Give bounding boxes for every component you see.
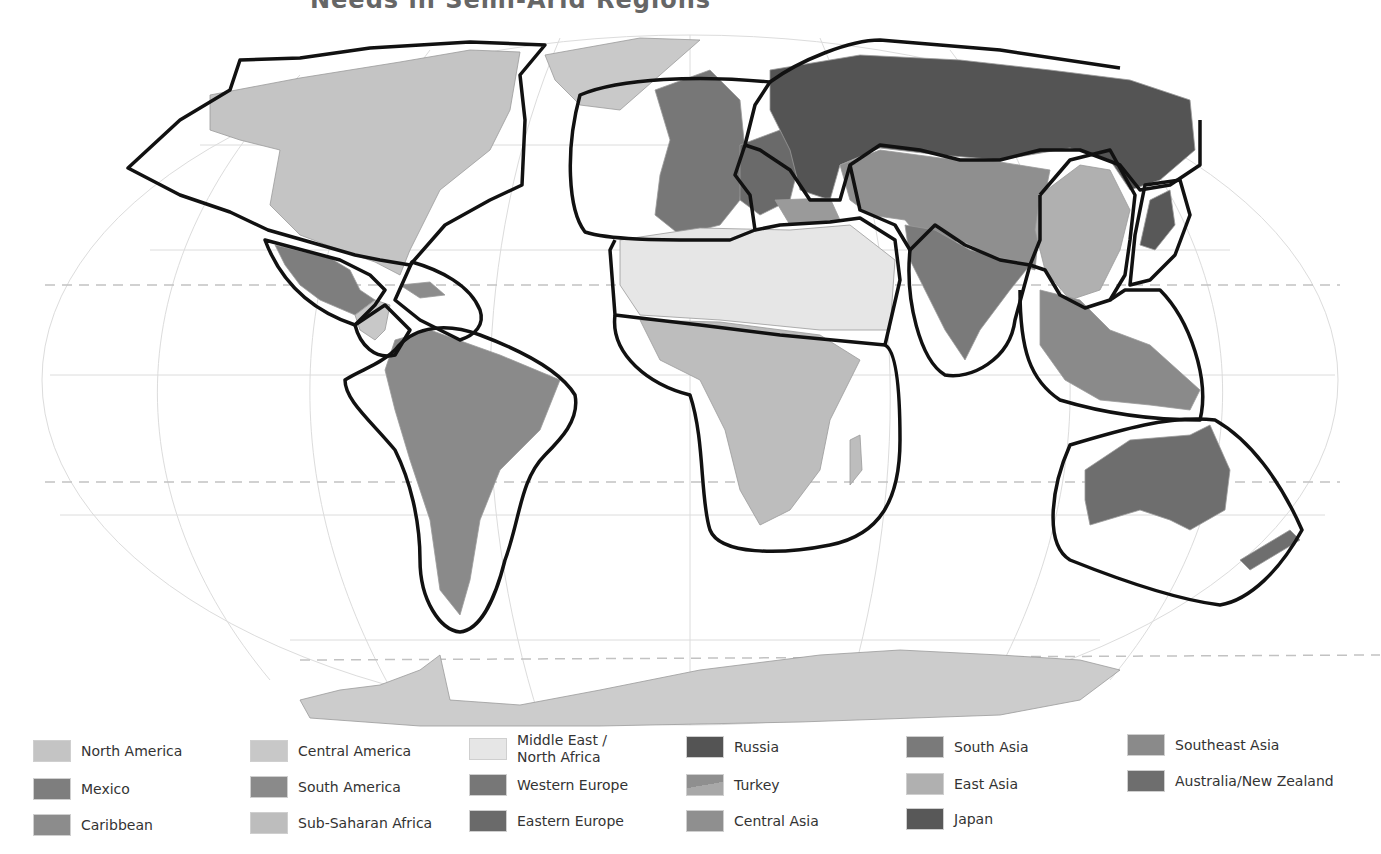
region-japan <box>1140 190 1175 250</box>
legend-item-middle-east-north-africa: Middle East / North Africa <box>469 732 607 766</box>
legend-item-central-america: Central America <box>250 740 411 762</box>
legend-item-japan: Japan <box>906 808 993 830</box>
swatch-russia <box>686 736 724 758</box>
swatch-mexico <box>33 778 71 800</box>
swatch-central-asia <box>686 810 724 832</box>
legend-label: East Asia <box>954 776 1018 793</box>
swatch-western-europe <box>469 774 507 796</box>
swatch-central-america <box>250 740 288 762</box>
region-australia-new-zealand <box>1085 425 1230 530</box>
swatch-south-america <box>250 776 288 798</box>
swatch-eastern-europe <box>469 810 507 832</box>
legend-item-north-america: North America <box>33 740 182 762</box>
legend-item-turkey: Turkey <box>686 774 780 796</box>
legend: North America Mexico Caribbean Central A… <box>0 730 1381 854</box>
swatch-south-asia <box>906 736 944 758</box>
legend-label: Middle East / North Africa <box>517 732 607 766</box>
legend-label: South Asia <box>954 739 1028 756</box>
legend-label: North America <box>81 743 182 760</box>
legend-item-russia: Russia <box>686 736 779 758</box>
swatch-southeast-asia <box>1127 734 1165 756</box>
legend-label: Central America <box>298 743 411 760</box>
swatch-caribbean <box>33 814 71 836</box>
legend-item-sub-saharan-africa: Sub-Saharan Africa <box>250 812 432 834</box>
swatch-middle-east-north-africa <box>469 738 507 760</box>
land <box>210 38 1300 726</box>
legend-label: South America <box>298 779 401 796</box>
swatch-japan <box>906 808 944 830</box>
world-map <box>0 0 1381 730</box>
legend-item-mexico: Mexico <box>33 778 130 800</box>
legend-item-south-america: South America <box>250 776 401 798</box>
legend-item-east-asia: East Asia <box>906 773 1018 795</box>
swatch-australia-new-zealand <box>1127 770 1165 792</box>
region-sub-saharan-africa <box>640 320 860 525</box>
legend-label: Eastern Europe <box>517 813 624 830</box>
legend-item-australia-new-zealand: Australia/New Zealand <box>1127 770 1334 792</box>
region-north-america <box>210 50 520 275</box>
legend-label: Mexico <box>81 781 130 798</box>
madagascar <box>850 435 862 485</box>
swatch-turkey <box>686 774 724 796</box>
legend-label: Russia <box>734 739 779 756</box>
swatch-east-asia <box>906 773 944 795</box>
legend-label: Caribbean <box>81 817 153 834</box>
antarctica <box>300 650 1120 726</box>
legend-label: Sub-Saharan Africa <box>298 815 432 832</box>
legend-label: Japan <box>954 811 993 828</box>
legend-label: Australia/New Zealand <box>1175 773 1334 790</box>
legend-item-western-europe: Western Europe <box>469 774 628 796</box>
legend-item-south-asia: South Asia <box>906 736 1028 758</box>
legend-label: Turkey <box>734 777 780 794</box>
legend-item-caribbean: Caribbean <box>33 814 153 836</box>
legend-item-central-asia: Central Asia <box>686 810 819 832</box>
legend-item-southeast-asia: Southeast Asia <box>1127 734 1279 756</box>
region-western-europe <box>655 70 745 235</box>
swatch-north-america <box>33 740 71 762</box>
swatch-sub-saharan-africa <box>250 812 288 834</box>
legend-label: Western Europe <box>517 777 628 794</box>
legend-item-eastern-europe: Eastern Europe <box>469 810 624 832</box>
legend-label: Central Asia <box>734 813 819 830</box>
legend-label: Southeast Asia <box>1175 737 1279 754</box>
